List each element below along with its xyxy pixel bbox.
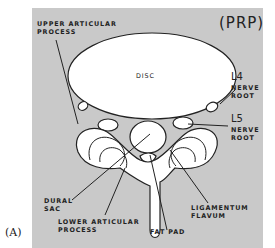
label-fat-pad: FAT PAD (150, 228, 185, 236)
dural-sac-shape (130, 121, 166, 153)
label-l5: L5 (231, 113, 243, 124)
label-l4: L4 (231, 71, 243, 82)
label-disc: DISC (136, 72, 155, 80)
label-upper-articular-process: UPPER ARTICULAR PROCESS (37, 20, 117, 36)
label-prp-tag: (PRP) (219, 14, 264, 32)
label-ligamentum-flavum: LIGAMENTUM FLAVUM (191, 204, 249, 220)
label-l4-nerve-root: NERVE ROOT (231, 84, 259, 100)
label-l5-nerve-root: NERVE ROOT (231, 126, 259, 142)
panel-label-a: (A) (5, 226, 22, 239)
fat-pad-shape (140, 153, 156, 162)
label-dural-sac: DURAL SAC (44, 197, 73, 213)
label-lower-articular-process: LOWER ARTICULAR PROCESS (58, 218, 139, 234)
l5-nerve-root-right-shape (173, 117, 193, 129)
